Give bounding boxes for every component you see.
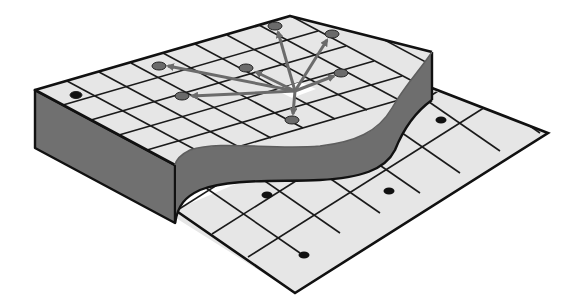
upper-node — [175, 92, 189, 100]
upper-node — [152, 62, 166, 70]
upper-node — [334, 69, 348, 77]
upper-node — [325, 30, 339, 38]
lower-node — [436, 117, 447, 124]
terrain-diagram — [0, 0, 576, 302]
upper-node — [239, 64, 253, 72]
upper-node — [268, 22, 282, 30]
diagram-canvas: Isometric terrain grid with raised plate… — [0, 0, 576, 302]
lower-node — [384, 188, 395, 195]
upper-node-dark — [70, 92, 82, 99]
upper-node — [285, 116, 299, 124]
arrow-to-bottom-node — [293, 91, 295, 114]
lower-node — [299, 252, 310, 259]
lower-node — [262, 192, 273, 199]
